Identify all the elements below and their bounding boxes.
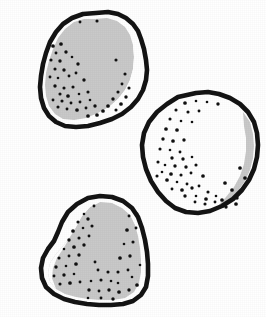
stipple-dot [116,270,119,273]
specimen-1 [40,12,147,127]
stipple-dot [179,151,182,154]
stipple-dot [174,108,177,111]
stipple-dot [223,181,227,185]
stipple-dot [51,44,55,48]
stipple-dot [58,282,61,285]
stipple-dot [60,99,63,102]
stipple-dot [116,90,119,93]
stipple-dot [68,255,71,258]
stipple-dot [66,94,70,98]
stipple-dot [100,297,103,300]
stipple-dot [77,253,80,256]
stipple-dot [169,172,173,176]
stipple-dot [56,105,59,108]
stipple-dot [170,156,173,159]
stipple-dot [215,195,218,198]
stipple-dot [161,171,164,174]
stipple-dot [82,78,85,81]
stipple-dot [119,102,123,106]
stipple-dot [79,281,82,284]
stipple-dot [135,283,139,287]
stipple-dot [125,228,129,232]
stipple-dot [71,85,74,88]
stipple-dot [106,104,110,108]
stipple-dot [201,174,205,178]
stipple-dot [198,110,201,113]
stipple-dot [64,50,67,53]
stipple-dot [78,93,81,96]
stipple-dot [128,254,131,257]
stipple-dot [194,163,197,166]
stipple-dot [82,227,85,230]
stipple-dot [173,164,176,167]
stipple-dot [176,181,179,184]
stipple-dot [95,19,98,22]
stipple-dot [94,261,97,264]
stipple-dot [169,149,172,152]
stipple-dot [62,68,65,71]
stipple-dot [194,201,197,204]
stipple-dot [75,108,79,112]
stipple-dot [191,156,194,159]
stipple-dot [57,77,60,80]
stipple-dot [52,99,55,102]
stipple-dot [54,265,57,268]
stipple-dot [71,56,74,59]
stipple-dot [238,166,242,170]
stipple-dot [180,120,183,123]
stipple-dot [164,164,167,167]
stipple-dot [57,256,60,259]
stipple-dot [63,248,66,251]
stipple-dot [106,270,109,273]
stipple-dot [76,62,79,65]
stipple-dot [86,114,90,118]
stipple-dot [191,121,194,124]
stipple-dot [243,176,247,180]
stipple-dot [155,174,158,177]
stipple-dot [128,215,131,218]
stipple-dot [204,197,208,201]
stipple-dot [230,188,234,192]
stipple-dot [87,288,90,291]
stipple-dot [66,108,69,111]
stipple-dot [131,240,134,243]
stipple-dot [79,101,82,104]
stipple-dot [83,213,86,216]
stipple-dot [139,264,142,267]
stipple-dot [234,202,238,206]
stipple-dot [156,160,159,163]
stipple-dot [72,245,76,249]
stipple-dot [214,201,217,204]
stipple-dot [171,139,175,143]
stipple-dot [70,102,73,105]
stipple-dot [76,220,79,223]
stipple-dot [59,42,63,46]
stipple-dot [165,178,169,182]
stipple-dot [206,190,209,193]
stipple-dot [93,104,96,107]
stipple-dot [118,256,122,260]
stipple-dot [117,282,120,285]
stipple-dot [62,273,65,276]
stipple-dot [164,127,168,131]
stipple-dot [123,72,126,75]
stipple-dot [95,113,99,117]
stipple-dot [90,280,93,283]
stipple-dot [79,21,82,24]
stipple-dot [161,137,164,140]
stipple-dot [97,269,100,272]
stipple-dot [71,229,75,233]
stipple-dot [127,288,130,291]
stipple-dot [168,117,171,120]
figure-canvas [0,0,266,317]
stipple-dot [62,86,65,89]
stipple-dot [82,243,85,246]
stipple-dot [93,205,96,208]
stipple-dot [117,290,121,294]
stipple-dot [184,165,187,168]
stipple-dot [127,269,130,272]
stipple-dot [195,100,198,103]
specimen-illustration [0,0,266,317]
stipple-dot [121,83,124,86]
stipple-dot [127,86,130,89]
